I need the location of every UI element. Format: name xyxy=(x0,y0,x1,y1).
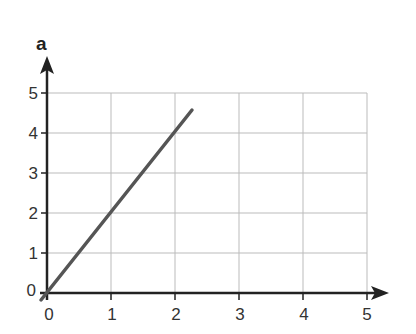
x-tick-label: 1 xyxy=(107,305,116,324)
grid xyxy=(47,93,367,293)
x-tick-labels: 0 1 2 3 4 5 xyxy=(44,305,371,324)
y-tick-label: 4 xyxy=(29,124,38,143)
y-tick-label: 2 xyxy=(29,204,38,223)
x-tick-label: 4 xyxy=(299,305,308,324)
y-tick-labels: 5 4 3 2 1 0 xyxy=(27,84,38,300)
y-axis-title: a xyxy=(36,33,47,54)
x-tick-label: 2 xyxy=(171,305,180,324)
y-tick-label: 3 xyxy=(29,164,38,183)
x-tick-label: 0 xyxy=(44,305,53,324)
x-axis xyxy=(40,286,389,300)
y-tick-label: 5 xyxy=(29,84,38,103)
y-tick-label: 0 xyxy=(27,281,36,300)
x-tick-label: 3 xyxy=(235,305,244,324)
line-chart: a 5 4 3 2 1 0 0 1 2 3 4 5 xyxy=(0,0,416,334)
y-tick-label: 1 xyxy=(29,244,38,263)
x-tick-label: 5 xyxy=(362,305,371,324)
data-line-a xyxy=(41,110,192,300)
